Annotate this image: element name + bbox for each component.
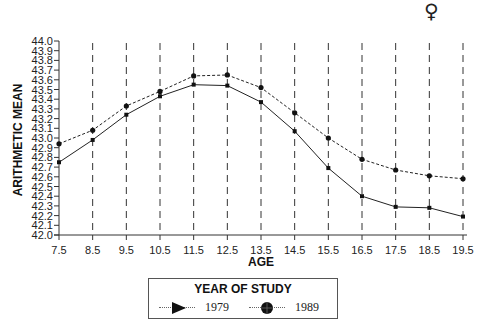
data-point-1989 [292, 110, 297, 115]
x-tick-label: 18.5 [419, 244, 440, 256]
data-point-1989 [393, 167, 398, 172]
x-tick-label: 9.5 [119, 244, 134, 256]
data-point-1989 [258, 85, 263, 90]
data-point-1979 [91, 138, 95, 142]
data-point-1989 [56, 141, 61, 146]
legend: YEAR OF STUDY 1979 1989 [148, 278, 338, 319]
female-symbol-icon: ♀ [424, 0, 439, 22]
circle-icon [260, 301, 274, 315]
x-tick-label: 16.5 [351, 244, 372, 256]
x-tick-label: 17.5 [385, 244, 406, 256]
y-tick-label: 44.0 [32, 35, 53, 47]
legend-item-1989: 1989 [249, 299, 319, 315]
data-point-1989 [359, 157, 364, 162]
triangle-right-icon [171, 301, 187, 315]
data-point-1989 [460, 176, 465, 181]
x-tick-label: 19.5 [452, 244, 473, 256]
data-point-1989 [427, 173, 432, 178]
vertical-gridlines [93, 43, 463, 235]
data-point-1979 [192, 83, 196, 87]
data-point-1979 [326, 166, 330, 170]
data-point-1989 [225, 72, 230, 77]
data-point-1989 [326, 135, 331, 140]
data-point-1979 [461, 215, 465, 219]
data-point-1979 [158, 94, 162, 98]
legend-label-1979: 1979 [205, 300, 229, 315]
x-tick-label: 11.5 [183, 244, 204, 256]
data-point-1979 [394, 205, 398, 209]
x-tick-label: 7.5 [51, 244, 66, 256]
data-point-1979 [225, 84, 229, 88]
legend-item-1979: 1979 [159, 299, 229, 315]
x-tick-label: 15.5 [318, 244, 339, 256]
data-point-1979 [427, 206, 431, 210]
data-point-1989 [191, 73, 196, 78]
data-point-1989 [90, 128, 95, 133]
data-point-1989 [124, 103, 129, 108]
x-tick-label: 12.5 [217, 244, 238, 256]
data-point-1979 [124, 113, 128, 117]
x-tick-label: 14.5 [284, 244, 305, 256]
data-point-1979 [293, 129, 297, 133]
legend-line-1979 [159, 307, 195, 308]
data-point-1979 [57, 160, 61, 164]
legend-title: YEAR OF STUDY [149, 282, 337, 296]
x-tick-label: 10.5 [149, 244, 170, 256]
data-point-1979 [259, 100, 263, 104]
data-point-1989 [157, 89, 162, 94]
axes: 42.042.142.242.342.442.542.642.742.842.9… [32, 35, 474, 256]
legend-label-1989: 1989 [295, 300, 319, 315]
legend-line-1989 [249, 307, 285, 308]
x-axis-title: AGE [248, 255, 274, 269]
x-tick-label: 8.5 [85, 244, 100, 256]
y-axis-title: ARITHMETIC MEAN [11, 84, 25, 197]
data-point-1979 [360, 194, 364, 198]
